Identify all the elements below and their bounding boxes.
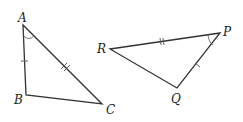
triangle-abc: A B C <box>13 11 115 117</box>
label-a: A <box>17 11 27 25</box>
triangle-pqr: R P Q <box>96 25 232 106</box>
triangle-abc-outline <box>23 25 102 104</box>
angle-arc-a <box>24 36 35 39</box>
label-b: B <box>13 93 23 107</box>
triangle-pqr-outline <box>110 33 220 88</box>
label-p: P <box>222 25 232 39</box>
label-r: R <box>96 42 106 56</box>
label-c: C <box>106 103 115 117</box>
label-q: Q <box>171 92 181 106</box>
congruent-triangles-diagram: A B C R P Q <box>0 0 243 122</box>
